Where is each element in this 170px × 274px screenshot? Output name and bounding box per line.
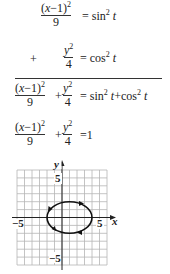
plus-sign: + [30, 53, 37, 66]
fraction-x-minus-1-over-9: (x−1)2 9 [15, 82, 45, 109]
denominator: 9 [53, 16, 59, 29]
y-axis-label: y [52, 158, 59, 170]
numerator: y2 [63, 121, 72, 134]
numerator: y2 [64, 44, 73, 57]
direction-arrow-icon [77, 230, 82, 235]
ellipse-graph: y x 5 −5 −5 5 [0, 155, 125, 274]
y-tick-neg-5: −5 [49, 252, 61, 264]
x-tick-5: 5 [97, 217, 103, 229]
fraction-x-minus-1-over-9: (x−1)2 9 [41, 2, 71, 29]
numerator: y2 [63, 82, 72, 95]
numerator: (x−1)2 [15, 121, 45, 134]
numerator: (x−1)2 [15, 82, 45, 95]
denominator: 4 [66, 58, 72, 71]
numerator: (x−1)2 [41, 2, 71, 15]
denominator: 4 [65, 135, 71, 148]
rhs-sin2-plus-cos2: = sin2 t+cos2 t [80, 90, 147, 103]
plus-sign: + [55, 90, 62, 103]
denominator: 4 [65, 96, 71, 109]
rhs-cos-squared-t: = cos2 t [80, 52, 116, 65]
fraction-x-minus-1-over-9: (x−1)2 9 [15, 121, 45, 148]
rhs-sin-squared-t: = sin2 t [82, 10, 116, 23]
x-axis-label: x [111, 215, 118, 227]
rhs-equals-one: =1 [80, 129, 93, 142]
plus-sign: + [55, 129, 62, 142]
fraction-y-over-4: y2 4 [63, 121, 72, 148]
fraction-y-over-4: y2 4 [64, 44, 73, 71]
fraction-y-over-4: y2 4 [63, 82, 72, 109]
denominator: 9 [27, 135, 33, 148]
x-tick-neg-5: −5 [12, 217, 24, 229]
y-tick-5: 5 [55, 172, 61, 184]
denominator: 9 [27, 96, 33, 109]
sum-line [15, 78, 162, 79]
